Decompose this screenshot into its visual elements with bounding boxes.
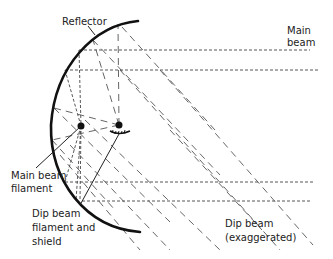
diagram-canvas: Reflector Main beam Main beam filament D…	[0, 0, 333, 259]
dip-beam-label-2: (exaggerated)	[225, 232, 296, 243]
main-filament-label-2: filament	[11, 183, 52, 194]
reflector-label: Reflector	[62, 16, 108, 27]
dip-filament-label-2: filament and	[32, 222, 95, 233]
dip-filament-label-3: shield	[32, 236, 62, 247]
dip-beam-rays	[52, 24, 313, 250]
main-beam-label-1: Main	[287, 25, 311, 36]
main-beam-label-2: beam	[287, 37, 315, 48]
dip-beam-label-1: Dip beam	[225, 218, 273, 229]
reflector-curve	[51, 21, 140, 232]
dip-filament-label-1: Dip beam	[32, 208, 80, 219]
main-filament-label-1: Main beam	[11, 170, 66, 181]
headlamp-diagram: Reflector Main beam Main beam filament D…	[0, 0, 333, 259]
